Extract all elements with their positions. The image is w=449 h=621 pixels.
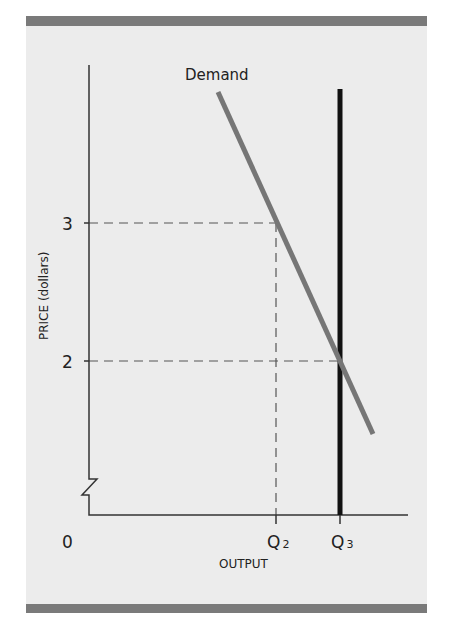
chart-plot: Demand 3 2 0 PRICE (dollars) OUTPUT Q2 Q… (0, 0, 449, 621)
demand-label: Demand (185, 66, 249, 84)
demand-line (218, 92, 373, 434)
reference-lines (89, 223, 340, 515)
y-tick-label-3: 3 (62, 214, 73, 234)
y-axis-label: PRICE (dollars) (37, 252, 51, 340)
x-tick-label-q2: Q2 (267, 532, 289, 552)
x-tick-label-q3: Q3 (331, 532, 353, 552)
y-tick-label-2: 2 (62, 352, 73, 372)
origin-label: 0 (62, 532, 73, 552)
x-axis-label: OUTPUT (219, 557, 269, 571)
y-axis (82, 65, 408, 515)
